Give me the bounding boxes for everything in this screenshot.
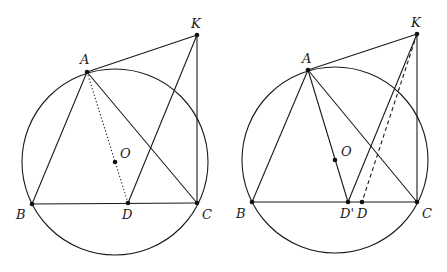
label-d: D: [356, 206, 368, 221]
label-k: K: [190, 16, 202, 31]
label-a: A: [301, 51, 311, 66]
point-k: [195, 33, 200, 38]
point-c: [195, 201, 200, 206]
geometry-diagram: ABCDKO ABCD'DKO: [0, 0, 447, 272]
point-a: [306, 68, 311, 73]
label-d: D: [121, 207, 133, 222]
label-a: A: [79, 52, 89, 67]
segment-a-k: [308, 34, 417, 70]
point-k: [415, 32, 420, 37]
label-o: O: [341, 144, 352, 159]
segment-a-b: [252, 70, 308, 202]
segment-k-d: [362, 34, 417, 202]
label-c: C: [422, 206, 432, 221]
segment-b-c: [32, 203, 197, 204]
point-b: [250, 200, 255, 205]
segment-a-c: [308, 70, 417, 202]
segment-k-dprime: [348, 34, 417, 202]
label-c: C: [202, 207, 212, 222]
segment-k-d: [128, 35, 197, 203]
segment-a-c: [87, 72, 197, 203]
point-d: [360, 200, 365, 205]
figure-left: ABCDKO: [15, 16, 212, 255]
segment-a-b: [32, 72, 87, 204]
point-o: [113, 160, 118, 165]
label-b: B: [235, 206, 246, 221]
segment-a-k: [87, 35, 197, 72]
figure-right: ABCD'DKO: [235, 15, 432, 253]
segment-a-d: [87, 72, 128, 203]
segment-a-dprime: [308, 70, 348, 202]
point-dprime: [346, 200, 351, 205]
label-k: K: [410, 15, 422, 30]
point-b: [30, 202, 35, 207]
label-o: O: [120, 146, 131, 161]
point-o: [333, 158, 338, 163]
point-c: [415, 200, 420, 205]
label-b: B: [15, 207, 26, 222]
label-dprime: D': [339, 206, 354, 221]
point-a: [85, 70, 90, 75]
point-d: [126, 201, 131, 206]
